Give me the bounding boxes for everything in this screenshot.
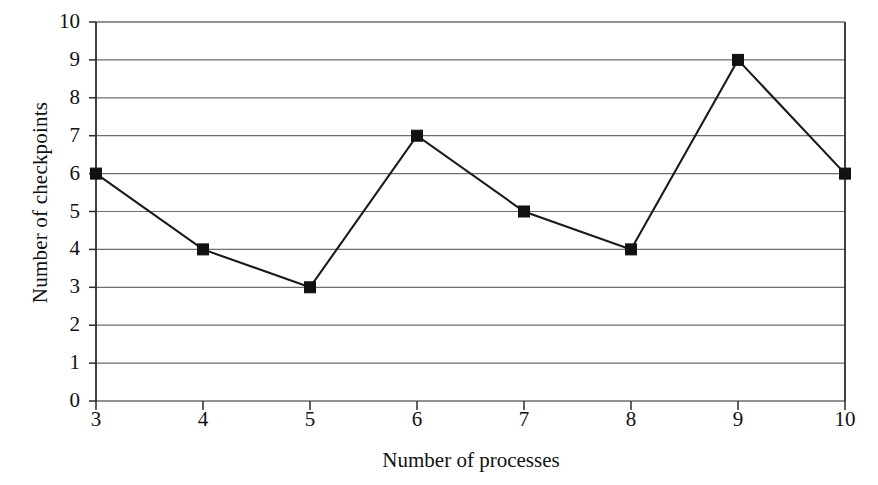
data-point-marker <box>412 130 423 141</box>
x-axis-label: Number of processes <box>96 448 846 473</box>
data-point-marker <box>519 206 530 217</box>
data-point-marker <box>733 54 744 65</box>
y-axis-label: Number of checkpoints <box>28 43 53 363</box>
data-point-marker <box>91 168 102 179</box>
gridlines-group <box>96 22 845 401</box>
data-point-marker <box>305 282 316 293</box>
x-tick-label-8: 8 <box>601 409 661 430</box>
x-tick-label-7: 7 <box>494 409 554 430</box>
y-tick-marks-group <box>89 22 96 401</box>
line-chart-figure: 012345678910 345678910 Number of checkpo… <box>0 0 878 485</box>
x-tick-label-5: 5 <box>280 409 340 430</box>
x-tick-label-6: 6 <box>387 409 447 430</box>
data-point-marker <box>198 244 209 255</box>
x-tick-label-9: 9 <box>708 409 768 430</box>
y-tick-label-10: 10 <box>40 11 80 32</box>
x-tick-label-3: 3 <box>66 409 126 430</box>
data-point-marker <box>626 244 637 255</box>
data-point-marker <box>840 168 851 179</box>
x-tick-label-10: 10 <box>815 409 875 430</box>
x-tick-label-4: 4 <box>173 409 233 430</box>
y-tick-label-0: 0 <box>40 390 80 411</box>
